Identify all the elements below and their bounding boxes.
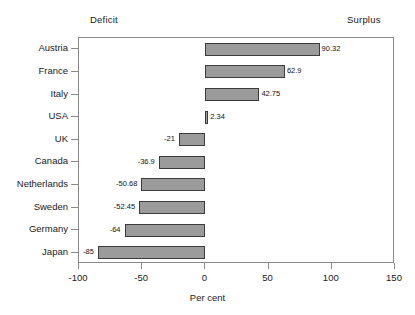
bar [98, 246, 205, 259]
bar-value-label: -50.68 [116, 179, 137, 188]
y-axis-tick [71, 184, 78, 185]
bar [139, 201, 205, 214]
bar [125, 224, 206, 237]
x-axis-tick-label: -50 [111, 272, 171, 283]
x-axis-title: Per cent [0, 292, 415, 303]
x-axis-tick [78, 263, 79, 269]
x-axis-tick-label: 50 [238, 272, 298, 283]
bar [141, 178, 205, 191]
category-label: Japan [0, 246, 68, 257]
bar [205, 65, 285, 78]
y-axis-tick [71, 94, 78, 95]
category-label: Italy [0, 88, 68, 99]
category-label: Germany [0, 223, 68, 234]
y-axis-tick [71, 139, 78, 140]
x-axis-tick-label: 100 [301, 272, 361, 283]
category-label: Austria [0, 42, 68, 53]
bar [179, 133, 206, 146]
bar [205, 111, 208, 124]
x-axis-tick-label: 0 [174, 272, 234, 283]
category-label: Canada [0, 155, 68, 166]
x-axis-tick [204, 263, 205, 269]
bar [205, 43, 319, 56]
bar-value-label: -21 [164, 134, 175, 143]
bar-value-label: 2.34 [210, 112, 225, 121]
category-label: UK [0, 133, 68, 144]
bar-chart: Deficit Surplus Per cent 90.32Austria62.… [0, 0, 415, 315]
bar-value-label: 42.75 [261, 89, 280, 98]
x-axis-tick [268, 263, 269, 269]
bar-value-label: 90.32 [322, 44, 341, 53]
x-axis-tick [331, 263, 332, 269]
bar-value-label: 62.9 [287, 66, 302, 75]
bar [205, 88, 259, 101]
y-axis-tick [71, 116, 78, 117]
category-label: Netherlands [0, 178, 68, 189]
surplus-header-label: Surplus [347, 14, 381, 25]
x-axis-tick [394, 263, 395, 269]
bar-value-label: -85 [83, 247, 94, 256]
y-axis-tick [71, 229, 78, 230]
plot-frame [78, 37, 394, 263]
y-axis-tick [71, 252, 78, 253]
bar-value-label: -64 [110, 225, 121, 234]
bar-value-label: -36.9 [138, 157, 155, 166]
bar [159, 156, 206, 169]
bar-value-label: -52.45 [114, 202, 135, 211]
category-label: Sweden [0, 201, 68, 212]
y-axis-tick [71, 71, 78, 72]
category-label: USA [0, 110, 68, 121]
y-axis-tick [71, 161, 78, 162]
plot-area [79, 38, 393, 262]
deficit-header-label: Deficit [90, 14, 118, 25]
y-axis-tick [71, 207, 78, 208]
x-axis-tick [141, 263, 142, 269]
x-axis-tick-label: 150 [364, 272, 415, 283]
category-label: France [0, 65, 68, 76]
y-axis-tick [71, 48, 78, 49]
x-axis-tick-label: -100 [48, 272, 108, 283]
